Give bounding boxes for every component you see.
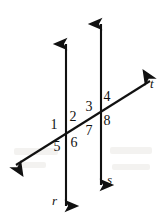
line-label-r: r xyxy=(52,194,57,207)
angle-label-2: 2 xyxy=(66,110,80,124)
angle-label-3: 3 xyxy=(82,100,96,114)
angle-label-8: 8 xyxy=(100,114,114,128)
line-t xyxy=(16,81,150,165)
geometry-figure: r s t 1 2 3 4 5 6 7 8 xyxy=(0,0,164,222)
line-label-s: s xyxy=(107,173,112,186)
angle-label-1: 1 xyxy=(47,118,61,132)
line-label-t: t xyxy=(150,77,154,90)
angle-label-7: 7 xyxy=(82,124,96,138)
angle-label-6: 6 xyxy=(67,136,81,150)
angle-label-5: 5 xyxy=(50,140,64,154)
angle-label-4: 4 xyxy=(100,90,114,104)
